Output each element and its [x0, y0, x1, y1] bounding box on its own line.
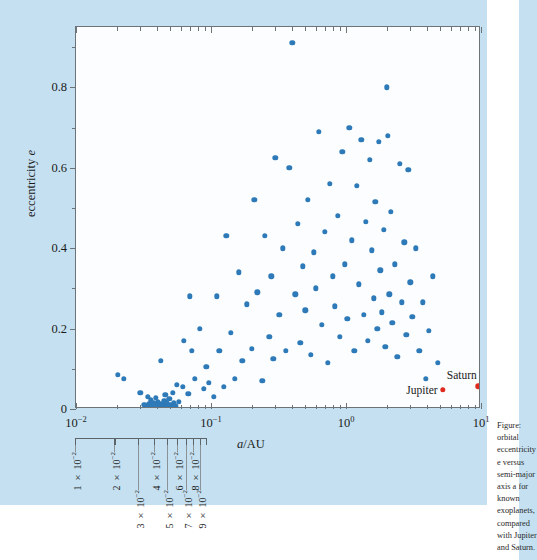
data-point	[186, 391, 191, 396]
y-tick-label: 0.8	[51, 80, 67, 95]
ruler-label: 1 × 10−2	[70, 452, 83, 490]
data-point	[181, 338, 186, 343]
data-point	[192, 376, 197, 381]
data-point	[180, 384, 185, 389]
data-point	[280, 245, 285, 250]
data-point	[330, 274, 335, 279]
data-point	[367, 157, 372, 162]
data-point	[206, 380, 211, 385]
ruler-label: 3 × 10−2	[133, 490, 146, 528]
data-point	[327, 181, 332, 186]
ruler-leader-line	[193, 445, 194, 452]
ruler-label: 2 × 10−2	[109, 452, 122, 490]
ruler-leader-line	[167, 445, 168, 490]
ruler-label: 7 × 10−2	[181, 490, 194, 528]
data-point	[174, 382, 179, 387]
data-point	[423, 376, 428, 381]
data-point	[303, 308, 308, 313]
data-point	[216, 348, 221, 353]
data-point	[420, 300, 425, 305]
ruler-tick	[75, 438, 76, 445]
data-point	[236, 270, 241, 275]
data-point	[361, 312, 366, 317]
data-point	[115, 372, 120, 377]
data-point	[316, 129, 321, 134]
ruler-tick	[154, 438, 155, 445]
data-point	[252, 197, 257, 202]
data-point	[271, 356, 276, 361]
data-point	[374, 326, 379, 331]
data-point	[406, 167, 411, 172]
page-bottom-margin	[0, 505, 519, 560]
scatter-figure: eccentricity e 00.20.40.60.8 10−210−1100…	[0, 0, 487, 512]
ruler-label: 5 × 10−2	[162, 490, 175, 528]
data-point	[255, 290, 260, 295]
data-point	[290, 40, 295, 45]
data-point	[239, 358, 244, 363]
x-tick-label: 101	[473, 414, 490, 431]
data-point	[408, 280, 413, 285]
data-point	[305, 197, 310, 202]
data-point	[158, 358, 163, 363]
data-point	[384, 85, 389, 90]
data-point	[211, 394, 216, 399]
data-point	[298, 340, 303, 345]
ruler-leader-line	[138, 445, 139, 490]
data-point	[319, 322, 324, 327]
data-point	[197, 326, 202, 331]
data-point	[413, 245, 418, 250]
data-point	[342, 262, 347, 267]
data-point	[287, 165, 292, 170]
x-tick-label: 100	[338, 414, 355, 431]
data-point	[344, 316, 349, 321]
x-tick-major	[481, 403, 482, 409]
y-tick-major	[70, 409, 76, 410]
data-point	[351, 348, 356, 353]
data-point	[224, 233, 229, 238]
data-point-layer: JupiterSaturn	[76, 27, 479, 407]
data-point	[388, 209, 393, 214]
data-point	[404, 332, 409, 337]
planet-marker	[476, 384, 479, 389]
data-point	[365, 338, 370, 343]
data-point	[170, 390, 175, 395]
data-point	[313, 286, 318, 291]
ruler-end-tick	[206, 438, 207, 445]
data-point	[387, 292, 392, 297]
data-point	[221, 384, 226, 389]
data-point	[232, 376, 237, 381]
planet-label-saturn: Saturn	[447, 369, 477, 381]
data-point	[244, 302, 249, 307]
ruler-leader-line	[75, 445, 76, 452]
planet-label-jupiter: Jupiter	[406, 384, 437, 396]
secondary-log-ruler	[75, 438, 206, 439]
data-point	[267, 334, 272, 339]
data-point	[369, 247, 374, 252]
data-point	[121, 376, 126, 381]
ruler-tick	[138, 438, 139, 445]
ruler-leader-line	[114, 445, 115, 452]
x-tick-major	[481, 27, 482, 33]
data-point	[325, 360, 330, 365]
ruler-tick	[193, 438, 194, 445]
data-point	[187, 294, 192, 299]
x-axis-title: a/AU	[237, 437, 265, 452]
data-point	[308, 352, 313, 357]
data-point	[430, 274, 435, 279]
data-point	[373, 199, 378, 204]
data-point	[214, 294, 219, 299]
ruler-tick	[200, 438, 201, 445]
y-axis-title: eccentricity e	[24, 150, 39, 217]
data-point	[201, 386, 206, 391]
data-point	[356, 282, 361, 287]
data-point	[300, 264, 305, 269]
data-point	[397, 161, 402, 166]
data-point	[311, 249, 316, 254]
plot-panel: 00.20.40.60.8 10−210−1100101 JupiterSatu…	[75, 26, 480, 408]
data-point	[249, 346, 254, 351]
ruler-label: 9 × 10−2	[195, 490, 208, 528]
data-point	[371, 296, 376, 301]
data-point	[138, 390, 143, 395]
data-point	[283, 348, 288, 353]
